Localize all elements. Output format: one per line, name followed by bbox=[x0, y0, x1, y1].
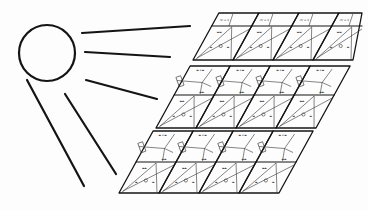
panel-band-top: ▬▬▬▬/E/ ∠ ⊻▬▬▬▬/E/ ∠ ⊻▬▬▬▬/E/ ∠ ⊻▬▬▬▬/E/… bbox=[193, 13, 362, 60]
solar-cell-tile: ▬▬▬▬/E/ ∠ ⊻ bbox=[193, 13, 259, 60]
svg-text:▬: ▬ bbox=[267, 46, 270, 49]
svg-text:▬: ▬ bbox=[135, 181, 138, 184]
svg-text:▬▬: ▬▬ bbox=[242, 158, 247, 161]
svg-text:/E/ ∠ ⊻: /E/ ∠ ⊻ bbox=[260, 19, 269, 22]
panel-band-bottom: ▬▬▬▬▬ ∠▬▬▬▬▬▬▬▬ ∠▬▬▬▬▬▬▬▬ ∠▬▬▬▬▬▬▬▬ ∠▬▬▬ bbox=[119, 131, 313, 193]
svg-text:▬▬: ▬▬ bbox=[297, 31, 302, 34]
svg-text:▬ ∠▬: ▬ ∠▬ bbox=[199, 134, 208, 137]
svg-text:/E/ ∠ ⊻: /E/ ∠ ⊻ bbox=[300, 19, 309, 22]
svg-text:▬▬: ▬▬ bbox=[282, 158, 287, 161]
svg-text:▬: ▬ bbox=[229, 115, 232, 118]
solar-cell-tile: ▬▬▬▬▬ ∠▬▬▬ bbox=[156, 66, 230, 128]
svg-text:▬: ▬ bbox=[292, 115, 295, 118]
svg-text:▬▬: ▬▬ bbox=[219, 100, 224, 103]
svg-text:▬: ▬ bbox=[255, 181, 258, 184]
svg-text:▬ ∠▬: ▬ ∠▬ bbox=[316, 69, 325, 72]
sun-ray-3 bbox=[86, 80, 157, 99]
svg-text:▬: ▬ bbox=[212, 115, 215, 118]
sun-ray-1 bbox=[82, 26, 190, 33]
svg-text:▬: ▬ bbox=[215, 181, 218, 184]
svg-text:▬▬: ▬▬ bbox=[162, 158, 167, 161]
svg-text:▬▬: ▬▬ bbox=[202, 158, 207, 161]
sun-ray-4 bbox=[65, 94, 116, 174]
svg-text:▬: ▬ bbox=[210, 46, 213, 49]
svg-text:▬: ▬ bbox=[272, 181, 275, 184]
svg-text:▬: ▬ bbox=[330, 46, 333, 49]
svg-text:▬▬: ▬▬ bbox=[142, 167, 147, 170]
svg-text:▬: ▬ bbox=[189, 115, 192, 118]
solar-cell-tile: ▬▬▬▬/E/ ∠ ⊻ bbox=[233, 13, 299, 60]
svg-text:▬▬: ▬▬ bbox=[257, 31, 262, 34]
svg-text:▬▬: ▬▬ bbox=[259, 100, 264, 103]
svg-text:▬: ▬ bbox=[290, 46, 293, 49]
svg-text:▬: ▬ bbox=[175, 181, 178, 184]
svg-text:▬: ▬ bbox=[152, 181, 155, 184]
svg-text:/E/ ∠ ⊻: /E/ ∠ ⊻ bbox=[340, 19, 349, 22]
svg-text:▬▬: ▬▬ bbox=[182, 167, 187, 170]
svg-text:▬ ∠▬: ▬ ∠▬ bbox=[239, 134, 248, 137]
panel-band-middle: ▬▬▬▬▬ ∠▬▬▬▬▬▬▬▬ ∠▬▬▬▬▬▬▬▬ ∠▬▬▬▬▬▬▬▬ ∠▬▬▬ bbox=[156, 66, 350, 128]
solar-panel-array: ▬▬▬▬/E/ ∠ ⊻▬▬▬▬/E/ ∠ ⊻▬▬▬▬/E/ ∠ ⊻▬▬▬▬/E/… bbox=[119, 13, 362, 193]
svg-text:▬▬: ▬▬ bbox=[337, 31, 342, 34]
sun-circle bbox=[19, 25, 75, 81]
svg-text:▬: ▬ bbox=[192, 181, 195, 184]
svg-text:▬▬: ▬▬ bbox=[239, 91, 244, 94]
svg-text:▬ ∠▬: ▬ ∠▬ bbox=[159, 134, 168, 137]
svg-text:▬▬: ▬▬ bbox=[199, 91, 204, 94]
svg-text:▬▬: ▬▬ bbox=[319, 91, 324, 94]
solar-cell-tile: ▬▬▬▬/E/ ∠ ⊻ bbox=[313, 13, 362, 60]
sun-icon bbox=[19, 25, 75, 81]
svg-text:▬▬: ▬▬ bbox=[279, 91, 284, 94]
svg-text:▬ ∠▬: ▬ ∠▬ bbox=[276, 69, 285, 72]
svg-text:▬▬: ▬▬ bbox=[217, 31, 222, 34]
svg-text:▬: ▬ bbox=[307, 46, 310, 49]
svg-text:▬: ▬ bbox=[227, 46, 230, 49]
svg-text:▬: ▬ bbox=[269, 115, 272, 118]
svg-text:▬ ∠▬: ▬ ∠▬ bbox=[236, 69, 245, 72]
svg-text:▬: ▬ bbox=[250, 46, 253, 49]
svg-text:▬▬: ▬▬ bbox=[262, 167, 267, 170]
svg-text:▬ ∠▬: ▬ ∠▬ bbox=[279, 134, 288, 137]
svg-text:▬▬: ▬▬ bbox=[299, 100, 304, 103]
svg-text:▬ ∠▬: ▬ ∠▬ bbox=[196, 69, 205, 72]
diagram-canvas: Sun irradiating a tiled solar panel arra… bbox=[0, 0, 368, 210]
svg-text:▬: ▬ bbox=[309, 115, 312, 118]
svg-text:▬: ▬ bbox=[172, 115, 175, 118]
svg-text:▬▬: ▬▬ bbox=[222, 167, 227, 170]
svg-text:▬: ▬ bbox=[252, 115, 255, 118]
svg-text:/E/ ∠ ⊻: /E/ ∠ ⊻ bbox=[220, 19, 229, 22]
svg-text:▬▬: ▬▬ bbox=[179, 100, 184, 103]
solar-cell-tile: ▬▬▬▬/E/ ∠ ⊻ bbox=[273, 13, 339, 60]
sun-ray-2 bbox=[85, 52, 170, 57]
svg-text:▬: ▬ bbox=[232, 181, 235, 184]
sun-ray-5 bbox=[27, 80, 84, 186]
svg-text:▬: ▬ bbox=[347, 46, 350, 49]
diagram-svg: ▬▬▬▬/E/ ∠ ⊻▬▬▬▬/E/ ∠ ⊻▬▬▬▬/E/ ∠ ⊻▬▬▬▬/E/… bbox=[0, 0, 368, 210]
